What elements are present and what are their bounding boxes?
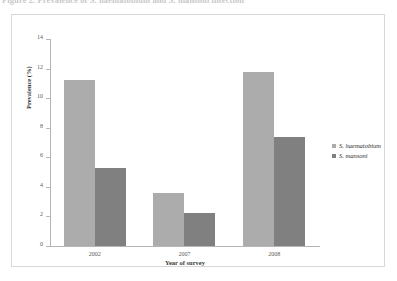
figure-caption-strip: Figure 2. Prevalence of S. haematobium a… <box>0 0 397 7</box>
plot-area: 200220072008 <box>50 39 319 246</box>
bar-2002-series-1[interactable] <box>95 168 126 246</box>
legend-swatch-icon <box>332 154 336 158</box>
x-axis-line <box>50 246 320 247</box>
bar-group: 2007 <box>140 39 230 246</box>
x-axis-title: Year of survey <box>50 259 320 266</box>
y-axis-tick-label: 14 <box>37 34 43 40</box>
y-axis-tick-label: 2 <box>40 211 43 217</box>
y-axis-tick-label: 0 <box>40 241 43 247</box>
bar-group-bars <box>140 39 230 246</box>
y-axis-tick-label: 12 <box>37 64 43 70</box>
y-axis-tick-label: 6 <box>40 152 43 158</box>
bar-2008-series-0[interactable] <box>243 72 274 246</box>
x-axis-tick-label: 2002 <box>50 251 140 257</box>
chart-legend: S. haematobiumS. mansoni <box>332 142 381 162</box>
bar-group: 2002 <box>50 39 140 246</box>
legend-item[interactable]: S. mansoni <box>332 152 381 159</box>
y-axis-tick-label: 4 <box>40 182 43 188</box>
bar-group: 2008 <box>229 39 319 246</box>
y-axis-tick-label: 8 <box>40 123 43 129</box>
bar-group-bars <box>50 39 140 246</box>
x-axis-tick-label: 2008 <box>229 251 319 257</box>
bar-2007-series-0[interactable] <box>153 193 184 246</box>
legend-item[interactable]: S. haematobium <box>332 142 381 149</box>
figure-caption-text: Figure 2. Prevalence of S. haematobium a… <box>2 0 244 5</box>
y-axis-title: Prevalence (%) <box>25 66 32 109</box>
legend-swatch-icon <box>332 144 336 148</box>
bar-group-bars <box>229 39 319 246</box>
bar-2007-series-1[interactable] <box>184 213 215 246</box>
bar-2002-series-0[interactable] <box>64 80 95 246</box>
y-axis-tick: 0 <box>46 246 50 247</box>
bar-2008-series-1[interactable] <box>274 137 305 246</box>
y-axis-tick-label: 10 <box>37 93 43 99</box>
legend-label: S. mansoni <box>339 152 368 159</box>
chart-figure-frame: Prevalence (%) 02468101214 200220072008 … <box>11 14 385 267</box>
x-axis-tick-label: 2007 <box>140 251 230 257</box>
legend-label: S. haematobium <box>339 142 381 149</box>
